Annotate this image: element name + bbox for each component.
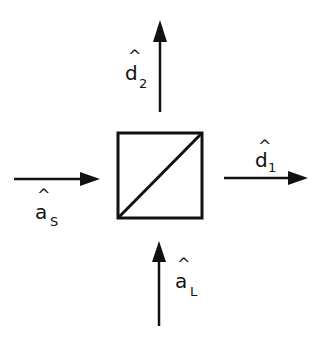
- arrow-head-up-icon: [152, 241, 166, 262]
- label-d-2: ^ d 2: [125, 46, 147, 91]
- label-base: d: [125, 61, 138, 85]
- label-a-s: ^ a S: [35, 185, 58, 229]
- label-subscript: 1: [268, 160, 276, 175]
- label-subscript: L: [190, 284, 198, 299]
- label-subscript: S: [50, 214, 58, 229]
- beam-splitter-diagonal: [119, 134, 201, 217]
- beam-splitter-diagram: ^ a S ^ a L ^ d 1 ^ d 2: [0, 0, 333, 340]
- input-arrow-a-l: [152, 241, 166, 326]
- label-a-l: ^ a L: [175, 254, 198, 299]
- label-base: a: [175, 269, 187, 293]
- label-d-1: ^ d 1: [255, 136, 276, 175]
- label-base: a: [35, 200, 47, 224]
- label-base: d: [255, 148, 268, 172]
- arrow-head-up-icon: [153, 20, 167, 42]
- beam-splitter: [118, 133, 202, 218]
- label-subscript: 2: [139, 76, 147, 91]
- output-arrow-d-2: [153, 20, 167, 112]
- input-arrow-a-s: [14, 172, 100, 186]
- arrow-head-right-icon: [288, 171, 308, 185]
- arrow-head-right-icon: [80, 172, 100, 186]
- output-arrow-d-1: [224, 171, 308, 185]
